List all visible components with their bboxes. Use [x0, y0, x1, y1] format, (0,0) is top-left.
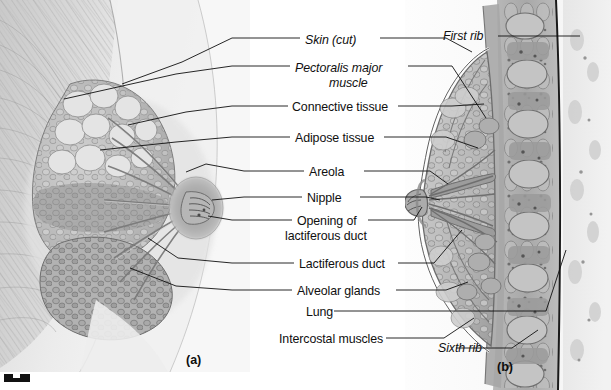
- label-sixth-rib: Sixth rib: [438, 341, 482, 355]
- label-areola: Areola: [309, 165, 344, 179]
- label-adipose-tissue: Adipose tissue: [295, 131, 374, 145]
- label-pectoralis-major: Pectoralis major: [295, 61, 382, 75]
- label-lactiferous-duct: Lactiferous duct: [299, 257, 385, 271]
- label-nipple: Nipple: [307, 191, 342, 205]
- label-skin-cut: Skin (cut): [305, 33, 356, 47]
- corner-registration-mark: [4, 374, 30, 382]
- label-pectoralis-muscle: muscle: [329, 76, 368, 90]
- label-alveolar-glands: Alveolar glands: [297, 284, 380, 298]
- label-lactiferous-duct-2: lactiferous duct: [285, 229, 367, 243]
- panel-a-illustration: [0, 0, 250, 372]
- panel-b-illustration: [405, 0, 611, 390]
- label-intercostal-muscles: Intercostal muscles: [279, 332, 383, 346]
- panel-a-tag: (a): [186, 353, 201, 367]
- label-first-rib: First rib: [443, 29, 483, 43]
- label-opening-of: Opening of: [297, 214, 357, 228]
- label-connective-tissue: Connective tissue: [292, 100, 388, 114]
- label-lung: Lung: [306, 305, 333, 319]
- breast-anatomy-figure: Skin (cut) Pectoralis major muscle Conne…: [0, 0, 611, 390]
- panel-b-tag: (b): [497, 360, 513, 374]
